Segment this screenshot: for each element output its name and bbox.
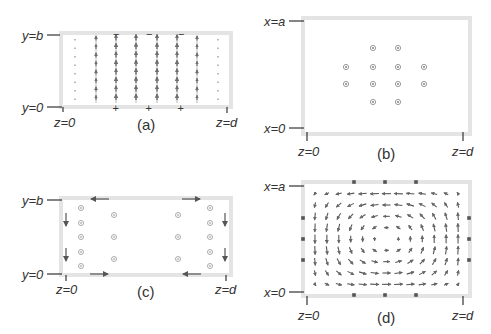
vortex-arrow [421, 225, 424, 231]
vortex-arrow [359, 193, 367, 194]
boundary-marker [414, 180, 418, 184]
vortex-arrow [325, 283, 329, 285]
dot-center [372, 66, 374, 68]
boundary-marker [383, 293, 387, 297]
vortex-arrow [337, 259, 341, 265]
negative-charge: − [113, 28, 119, 40]
vortex-arrow [395, 261, 401, 263]
vortex-arrow [444, 203, 447, 208]
vortex-arrow [420, 259, 425, 264]
vortex-arrow [431, 193, 437, 194]
vortex-arrow [409, 248, 412, 253]
panel-c-current-arrows [66, 199, 225, 274]
panel-d: x=a x=0 z=0 z=d (d) [263, 179, 474, 326]
vortex-arrow [325, 271, 328, 276]
boundary-marker [352, 180, 356, 184]
label-bottom-left: x=0 [263, 121, 286, 136]
boundary-marker [301, 237, 305, 241]
vortex-arrow [432, 203, 437, 207]
vortex-arrow [396, 249, 400, 252]
vortex-arrow [445, 258, 447, 265]
vortex-arrow [446, 246, 447, 254]
dot-center [372, 83, 374, 85]
vortex-arrow [419, 284, 426, 285]
vortex-arrow [348, 203, 354, 206]
vortex-arrow [394, 204, 402, 205]
vortex-arrow [419, 193, 426, 194]
dot-center [177, 214, 179, 216]
dot-center [397, 101, 399, 103]
vortex-arrow [326, 258, 328, 265]
label-z0: z=0 [55, 282, 78, 297]
vortex-arrow [395, 215, 401, 217]
vortex-arrow [336, 284, 342, 285]
dot-center [345, 83, 347, 85]
label-zd: z=d [215, 115, 238, 130]
positive-charge: + [146, 102, 152, 114]
boundary-marker [383, 180, 387, 184]
vortex-arrow [408, 215, 414, 219]
positive-charge: + [113, 102, 119, 114]
vortex-arrow [373, 226, 377, 229]
panel-b: x=a x=0 z=0 z=d (b) [263, 14, 474, 162]
vortex-arrow [371, 215, 377, 217]
caption-c: (c) [137, 283, 155, 300]
vortex-arrow [349, 247, 352, 253]
boundary-marker [467, 216, 471, 220]
dot-center [372, 47, 374, 49]
dot-center [113, 236, 115, 238]
vortex-arrow [314, 270, 315, 275]
dot-center [209, 265, 211, 267]
label-z0: z=0 [53, 115, 76, 130]
caption-d: (d) [377, 309, 395, 326]
vortex-arrow [458, 213, 459, 220]
dot-center [209, 236, 211, 238]
panel-c-frame [61, 198, 231, 275]
caption-b: (b) [377, 145, 395, 162]
vortex-arrow [433, 224, 435, 231]
vortex-arrow [407, 204, 414, 206]
panel-c: y=b y=0 z=0 z=d (c) [21, 193, 237, 300]
dot-center [80, 251, 82, 253]
vortex-arrow [326, 246, 327, 254]
caption-a: (a) [137, 116, 155, 133]
dot-center [80, 207, 82, 209]
boundary-marker [352, 293, 356, 297]
boundary-marker [414, 293, 418, 297]
positive-charge: + [178, 102, 184, 114]
panel-a: −−− +++ y=b y=0 z=0 z=d (a) [21, 28, 238, 133]
vortex-arrow [336, 271, 341, 275]
vortex-arrow [360, 215, 366, 219]
vortex-arrow [419, 271, 425, 274]
vortex-arrow [325, 193, 329, 195]
label-top-left: y=b [21, 28, 43, 43]
vortex-arrow [457, 192, 459, 195]
vortex-arrow [433, 247, 435, 254]
vortex-arrow [338, 224, 340, 231]
vortex-arrow [431, 284, 437, 285]
dot-center [423, 66, 425, 68]
vortex-arrow [457, 202, 458, 207]
vortex-arrow [359, 284, 367, 285]
label-bottom-left: x=0 [263, 285, 286, 300]
label-top-left: x=a [263, 179, 285, 194]
vortex-arrow [432, 259, 436, 265]
label-bottom-left: y=0 [21, 100, 44, 115]
vortex-arrow [347, 193, 354, 194]
vortex-arrow [420, 214, 425, 219]
label-zd: z=d [451, 308, 474, 323]
label-top-left: x=a [263, 14, 285, 29]
vortex-arrow [348, 259, 353, 264]
vortex-arrow [326, 224, 327, 232]
vortex-arrow [336, 193, 342, 194]
boundary-marker [467, 237, 471, 241]
vortex-arrow [326, 213, 328, 220]
panel-d-vortex-field [314, 192, 459, 286]
vortex-arrow [314, 202, 315, 207]
dot-center [397, 66, 399, 68]
label-top-left: y=b [21, 193, 43, 208]
vortex-arrow [359, 272, 366, 274]
vortex-arrow [406, 284, 414, 285]
vortex-arrow [348, 214, 353, 219]
vortex-arrow [371, 204, 379, 205]
